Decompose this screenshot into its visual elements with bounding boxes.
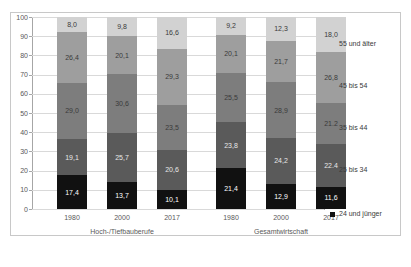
top-caption: [4, 0, 124, 9]
bar-segment-value: 25,7: [115, 154, 129, 161]
y-axis-tick-label: 20: [2, 167, 28, 174]
legend-label: 45 bis 54: [339, 82, 367, 90]
bar-segment-value: 21,7: [274, 58, 288, 65]
stacked-bar[interactable]: 12,321,728,924,212,9: [266, 17, 296, 209]
bar-segment[interactable]: 19,1: [57, 139, 87, 176]
y-axis-tick-mark: [29, 171, 32, 172]
stacked-bar[interactable]: 9,220,125,523,821,4: [216, 17, 246, 209]
legend-label: 55 und älter: [339, 40, 376, 48]
bar-segment-value: 20,1: [224, 50, 238, 57]
y-axis-tick-label: 10: [2, 186, 28, 193]
legend-swatch-icon: [330, 168, 335, 173]
legend-item[interactable]: 24 und jünger: [330, 210, 382, 218]
legend-label: 24 und jünger: [339, 210, 382, 218]
y-axis-tick-mark: [29, 94, 32, 95]
bar-segment-value: 25,5: [224, 94, 238, 101]
bar-segment-value: 10,1: [165, 196, 179, 203]
chart-legend: 55 und älter45 bis 5435 bis 4425 bis 342…: [330, 20, 408, 215]
bar-segment-value: 20,1: [115, 52, 129, 59]
bar-segment-value: 16,6: [165, 29, 179, 36]
bar-segment[interactable]: 30,6: [107, 74, 137, 133]
y-axis-tick-label: 40: [2, 129, 28, 136]
y-axis-tick-mark: [29, 132, 32, 133]
legend-item[interactable]: 45 bis 54: [330, 82, 367, 90]
bar-segment-value: 20,6: [165, 166, 179, 173]
bar-segment[interactable]: 9,8: [107, 17, 137, 36]
bar-segment[interactable]: 20,1: [216, 35, 246, 74]
bar-segment-value: 23,8: [224, 142, 238, 149]
y-axis-tick-mark: [29, 190, 32, 191]
x-axis-group-label: Gesamtwirtschaft: [206, 228, 356, 236]
legend-swatch-icon: [330, 126, 335, 131]
bar-segment-value: 29,3: [165, 73, 179, 80]
legend-swatch-icon: [330, 212, 335, 217]
bar-segment[interactable]: 21,7: [266, 41, 296, 83]
y-axis-tick-mark: [29, 17, 32, 18]
legend-item[interactable]: 25 bis 34: [330, 166, 367, 174]
legend-label: 25 bis 34: [339, 166, 367, 174]
legend-item[interactable]: 35 bis 44: [330, 124, 367, 132]
bar-segment-value: 9,2: [226, 22, 236, 29]
bar-segment-value: 12,9: [274, 193, 288, 200]
bar-segment[interactable]: 16,6: [157, 17, 187, 49]
y-axis-tick-label: 0: [2, 206, 28, 213]
bar-segment[interactable]: 20,6: [157, 150, 187, 190]
bar-segment[interactable]: 20,1: [107, 36, 137, 75]
y-axis-tick-mark: [29, 75, 32, 76]
bar-segment[interactable]: 13,7: [107, 182, 137, 208]
bar-segment-value: 12,3: [274, 25, 288, 32]
bar-segment-value: 30,6: [115, 100, 129, 107]
y-axis-tick-label: 80: [2, 52, 28, 59]
y-axis-tick-label: 30: [2, 148, 28, 155]
x-axis-group-label: Hoch-/Tiefbauberufe: [47, 228, 197, 236]
y-axis-tick-mark: [29, 209, 32, 210]
bar-segment-value: 13,7: [115, 192, 129, 199]
bar-segment[interactable]: 29,3: [157, 49, 187, 105]
x-axis-category-label: 2017: [142, 214, 202, 222]
y-axis-tick-label: 50: [2, 110, 28, 117]
legend-label: 35 bis 44: [339, 124, 367, 132]
bar-segment-value: 23,5: [165, 124, 179, 131]
bar-segment[interactable]: 8,0: [57, 17, 87, 32]
gridline: [32, 209, 324, 210]
bar-segment[interactable]: 25,5: [216, 73, 246, 122]
bar-segment-value: 28,9: [274, 107, 288, 114]
bar-segment[interactable]: 23,8: [216, 122, 246, 168]
y-axis-tick-mark: [29, 55, 32, 56]
bar-segment[interactable]: 26,4: [57, 32, 87, 83]
bar-segment[interactable]: 21,4: [216, 168, 246, 209]
bar-segment[interactable]: 25,7: [107, 133, 137, 182]
bar-segment[interactable]: 29,0: [57, 83, 87, 139]
bar-segment[interactable]: 28,9: [266, 82, 296, 137]
legend-swatch-icon: [330, 42, 335, 47]
chart-container: 8,026,429,019,117,49,820,130,625,713,716…: [0, 0, 411, 267]
y-axis-tick-mark: [29, 151, 32, 152]
bar-segment-value: 26,4: [65, 54, 79, 61]
bar-segment-value: 29,0: [65, 107, 79, 114]
bar-segment-value: 9,8: [117, 23, 127, 30]
bar-segment[interactable]: 12,9: [266, 184, 296, 209]
stacked-bar[interactable]: 8,026,429,019,117,4: [57, 17, 87, 209]
y-axis-tick-mark: [29, 36, 32, 37]
bar-segment[interactable]: 23,5: [157, 105, 187, 150]
legend-swatch-icon: [330, 84, 335, 89]
bar-segment[interactable]: 9,2: [216, 17, 246, 35]
bar-segment-value: 24,2: [274, 157, 288, 164]
plot-area: 8,026,429,019,117,49,820,130,625,713,716…: [32, 17, 324, 209]
bar-segment[interactable]: 24,2: [266, 138, 296, 184]
bar-segment-value: 19,1: [65, 154, 79, 161]
stacked-bar[interactable]: 16,629,323,520,610,1: [157, 17, 187, 209]
bar-segment-value: 17,4: [65, 189, 79, 196]
bar-segment[interactable]: 10,1: [157, 190, 187, 209]
y-axis-tick-label: 60: [2, 90, 28, 97]
bar-segment[interactable]: 12,3: [266, 17, 296, 41]
bar-segment[interactable]: 17,4: [57, 175, 87, 208]
y-axis-tick-label: 70: [2, 71, 28, 78]
y-axis-tick-mark: [29, 113, 32, 114]
bar-segment-value: 8,0: [67, 21, 77, 28]
y-axis-tick-label: 100: [2, 14, 28, 21]
legend-item[interactable]: 55 und älter: [330, 40, 376, 48]
y-axis-tick-label: 90: [2, 33, 28, 40]
bar-segment-value: 21,4: [224, 185, 238, 192]
stacked-bar[interactable]: 9,820,130,625,713,7: [107, 17, 137, 209]
